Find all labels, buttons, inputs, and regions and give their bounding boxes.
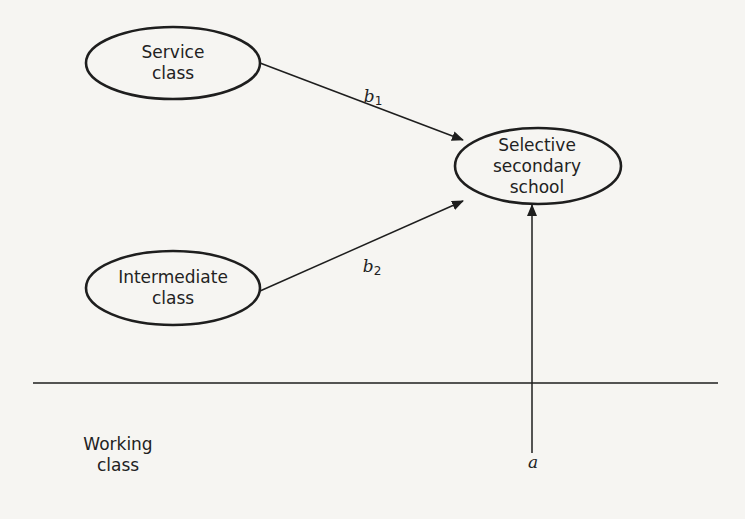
working-class-label: Working class bbox=[83, 434, 152, 476]
edge-label-symbol: b bbox=[363, 256, 374, 276]
label-line: school bbox=[493, 177, 581, 198]
edge-b1-arrow bbox=[260, 63, 463, 140]
edge-label-symbol: b bbox=[364, 86, 375, 106]
label-line: Selective bbox=[493, 135, 581, 156]
label-line: class bbox=[142, 63, 205, 84]
edge-a-label: a bbox=[528, 452, 538, 472]
label-line: class bbox=[118, 288, 228, 309]
label-line: secondary bbox=[493, 156, 581, 177]
edge-label-subscript: 1 bbox=[375, 94, 383, 108]
label-line: Service bbox=[142, 42, 205, 63]
edge-b2-arrow bbox=[260, 201, 463, 291]
edge-b1-label: b1 bbox=[364, 86, 383, 108]
label-line: class bbox=[83, 455, 152, 476]
label-line: Working bbox=[83, 434, 152, 455]
node-intermediate-class-label: Intermediate class bbox=[118, 267, 228, 309]
edge-b2-label: b2 bbox=[363, 256, 382, 278]
edge-label-symbol: a bbox=[528, 452, 538, 472]
node-selective-school-label: Selective secondary school bbox=[493, 135, 581, 198]
node-service-class-label: Service class bbox=[142, 42, 205, 84]
edge-label-subscript: 2 bbox=[374, 264, 382, 278]
label-line: Intermediate bbox=[118, 267, 228, 288]
